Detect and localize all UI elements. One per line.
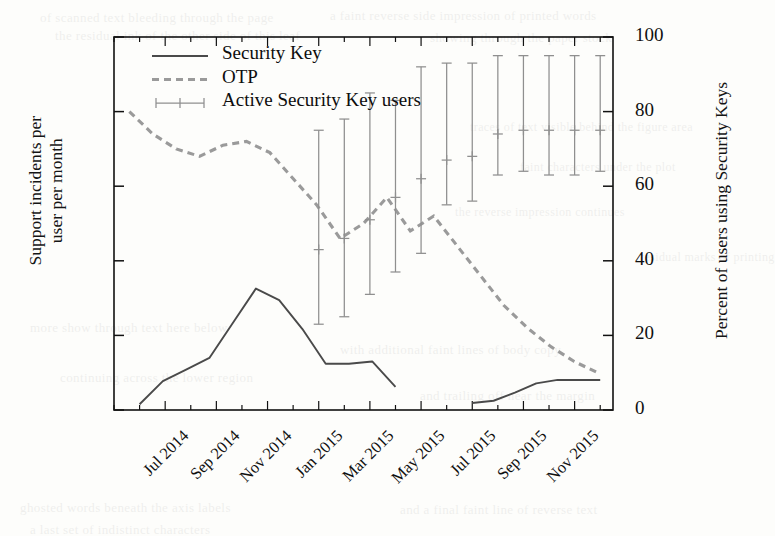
errorbar-10: [570, 56, 580, 175]
legend-label-active-security-key-users: Active Security Key users: [222, 89, 421, 111]
legend-label-security-key: Security Key: [222, 42, 322, 64]
y-axis-label-left-line2: user per month: [46, 41, 67, 341]
y-right-tick-label: 60: [635, 173, 654, 195]
errorbar-11: [595, 56, 605, 172]
y-right-tick-label: 40: [635, 248, 654, 270]
series-security-key-segment-0: [140, 289, 396, 405]
legend-label-otp: OTP: [222, 66, 258, 88]
y-right-tick-label: 80: [635, 99, 654, 121]
y-axis-label-left: Support incidents per user per month: [25, 41, 66, 341]
errorbar-3: [390, 100, 400, 272]
y-right-tick-label: 100: [635, 24, 664, 46]
y-axis-label-left-line1: Support incidents per: [25, 41, 46, 341]
errorbar-9: [544, 56, 554, 175]
errorbar-0: [314, 130, 324, 324]
series-security-key-segment-1: [472, 380, 600, 403]
y-right-tick-label: 20: [635, 322, 654, 344]
series-otp-line: [129, 112, 597, 373]
y-right-tick-label: 0: [635, 397, 645, 419]
errorbar-1: [339, 119, 349, 317]
y-axis-label-right: Percent of users using Security Keys: [711, 21, 732, 401]
errorbar-8: [518, 56, 528, 172]
errorbar-6: [467, 63, 477, 201]
errorbar-7: [493, 56, 503, 175]
errorbar-2: [365, 93, 375, 294]
errorbar-5: [442, 63, 452, 205]
